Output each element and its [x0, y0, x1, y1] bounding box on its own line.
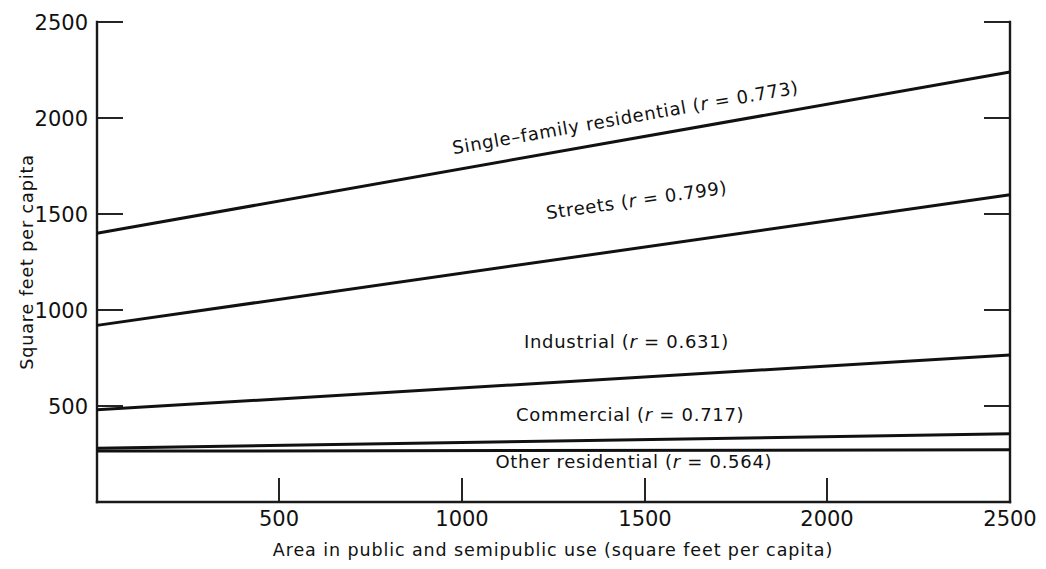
- series-line-commercial: [97, 434, 1010, 448]
- series-label-streets: Streets (r = 0.799): [545, 177, 729, 224]
- x-tick-label-500: 500: [259, 507, 299, 531]
- x-tick-label-1000: 1000: [435, 507, 488, 531]
- axis-frame: [97, 22, 1010, 502]
- y-tick-marks-right: [984, 22, 1010, 406]
- series-label-other-residential: Other residential (r = 0.564): [495, 451, 772, 472]
- y-tick-label-500: 500: [48, 395, 88, 419]
- series-label-commercial: Commercial (r = 0.717): [516, 404, 744, 425]
- x-tick-labels: 500 1000 1500 2000 2500: [259, 507, 1037, 531]
- series-line-industrial: [97, 355, 1010, 410]
- x-tick-marks: [279, 478, 827, 502]
- y-tick-label-1000: 1000: [35, 299, 88, 323]
- x-tick-label-2500: 2500: [983, 507, 1036, 531]
- x-axis-title: Area in public and semipublic use (squar…: [273, 540, 833, 560]
- y-tick-marks: [97, 22, 123, 406]
- y-tick-label-2500: 2500: [35, 11, 88, 35]
- chart-canvas: 2500 2000 1500 1000 500 500 1000 1500 20…: [0, 0, 1046, 569]
- x-tick-label-1500: 1500: [618, 507, 671, 531]
- series-labels-group: Single–family residential (r = 0.773)Str…: [451, 77, 801, 473]
- y-tick-labels: 2500 2000 1500 1000 500: [35, 11, 88, 419]
- y-axis-title: Square feet per capita: [17, 154, 37, 370]
- y-tick-label-2000: 2000: [35, 107, 88, 131]
- series-label-industrial: Industrial (r = 0.631): [524, 331, 729, 352]
- chart-figure: 2500 2000 1500 1000 500 500 1000 1500 20…: [0, 0, 1046, 569]
- x-tick-label-2000: 2000: [800, 507, 853, 531]
- y-tick-label-1500: 1500: [35, 203, 88, 227]
